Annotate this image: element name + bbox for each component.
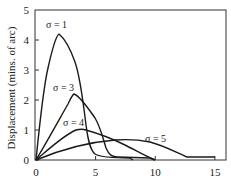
y-tick-3: 3 (24, 64, 30, 76)
x-tick-15: 15 (209, 166, 221, 178)
x-tick-10: 10 (150, 166, 162, 178)
chart: 0 1 2 3 4 5 0 5 10 15 Displacement (mins… (0, 0, 231, 183)
label-sigma-5: σ = 5 (145, 133, 166, 144)
curve-sigma-1 (36, 34, 133, 160)
y-tick-1: 1 (24, 124, 30, 136)
y-axis-title: Displacement (mins. of arc) (5, 26, 18, 149)
y-tick-2: 2 (24, 94, 30, 106)
curve-sigma-4 (36, 129, 155, 160)
y-tick-4: 4 (24, 34, 30, 46)
y-tick-0: 0 (24, 154, 30, 166)
label-sigma-4: σ = 4 (63, 117, 84, 128)
y-tick-5: 5 (24, 4, 30, 16)
curve-sigma-3 (36, 94, 155, 160)
label-sigma-1: σ = 1 (46, 19, 67, 30)
label-sigma-3: σ = 3 (53, 82, 74, 93)
x-tick-5: 5 (93, 166, 99, 178)
x-tick-0: 0 (33, 166, 39, 178)
